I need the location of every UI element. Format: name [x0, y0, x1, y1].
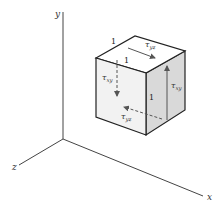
y-axis-label: y [54, 9, 61, 19]
x-axis [63, 139, 203, 196]
edge-length-label-height: 1 [149, 93, 154, 102]
diagram-canvas: y z x τyz τxy τxy [0, 0, 219, 206]
z-axis-label: z [11, 162, 17, 172]
x-axis-label: x [207, 192, 212, 202]
edge-length-label-depth: 1 [124, 56, 129, 65]
edge-length-label-top: 1 [111, 37, 116, 46]
z-axis [19, 139, 63, 165]
shear-stress-diagram: y z x τyz τxy τxy [0, 0, 219, 206]
